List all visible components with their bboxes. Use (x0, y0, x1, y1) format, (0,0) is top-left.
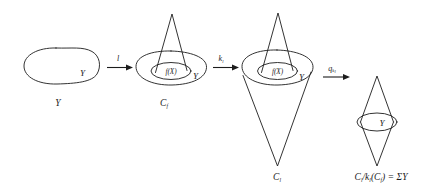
stage-4-group: Y Cl/kl(Cf)=ΣY (355, 76, 410, 183)
diagram-canvas: Y Y l f(X) Y Cf (0, 0, 434, 195)
stage-4-inner-label-y: Y (379, 118, 385, 128)
stage-4-caption: Cl/kl(Cf)=ΣY (355, 172, 410, 183)
arrow-1-label: l (117, 54, 120, 63)
arrow-2-label-sub: l (222, 59, 224, 64)
stage-2-inner-label-fx: f(X) (165, 68, 177, 76)
stage-4-down-cone (361, 122, 394, 166)
stage-3-inner-label-fx: f(X) (272, 68, 284, 76)
stage-3-down-cone (243, 72, 311, 166)
stage-4-equator-ellipse (357, 113, 397, 131)
arrow-3-group: qkl (323, 64, 350, 80)
stage-2-group: f(X) Y Cf (136, 14, 207, 109)
stage-3-group: f(X) Y Cl (242, 13, 313, 183)
arrow-1-group: l (107, 54, 133, 70)
arrow-3-head (343, 74, 350, 80)
stage-2-caption: Cf (160, 98, 169, 109)
stage-3-inner-label-y: Y (299, 72, 305, 82)
stage-1-inner-label-y: Y (80, 68, 86, 78)
diagram-root: Y Y l f(X) Y Cf (0, 0, 434, 195)
arrow-3-label-subsub: l (334, 69, 336, 74)
stage-2-fx-text: f(X) (165, 68, 177, 76)
stage-4-cap-eq: = (388, 172, 393, 182)
arrow-3-label: qkl (328, 64, 336, 75)
stage-1-blob-outline (24, 48, 100, 84)
stage-1-group: Y Y (24, 48, 100, 108)
stage-4-cap-y: Y (402, 172, 409, 182)
stage-3-caption-sub: l (279, 177, 281, 183)
arrow-1-head (126, 65, 133, 71)
stage-2-caption-sub: f (166, 103, 169, 109)
stage-4-cap-close: ) (381, 172, 385, 183)
arrow-2-head (232, 65, 239, 71)
arrow-2-group: kl (213, 54, 239, 70)
stage-3-caption: Cl (273, 172, 281, 183)
arrow-2-label: kl (219, 54, 225, 64)
stage-1-caption: Y (55, 98, 62, 108)
